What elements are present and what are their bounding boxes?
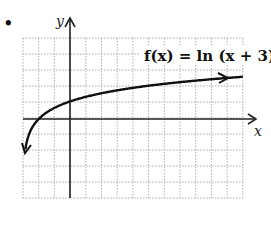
bullet: • <box>3 13 14 34</box>
function-curve <box>25 77 242 150</box>
function-label: f(x) = ln (x + 3) <box>144 47 271 65</box>
y-axis-label: y <box>55 13 65 29</box>
graph: • y x f(x) = ln (x + 3) <box>0 0 271 230</box>
x-axis-label: x <box>254 123 262 139</box>
